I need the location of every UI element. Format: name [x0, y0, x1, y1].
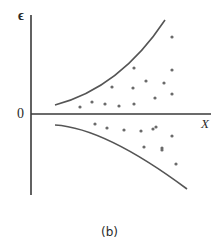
data-point: [174, 162, 177, 165]
x-axis-label: X: [201, 117, 209, 130]
data-point: [170, 134, 173, 137]
upper-bound-curve: [55, 20, 165, 105]
data-point: [105, 126, 108, 129]
data-point: [132, 102, 135, 105]
data-point: [170, 92, 173, 95]
data-point: [110, 85, 113, 88]
data-point: [90, 100, 93, 103]
heteroscedasticity-diagram: ϵ 0 X (b): [0, 0, 221, 246]
data-point: [132, 66, 135, 69]
data-point: [117, 104, 120, 107]
data-point: [139, 129, 142, 132]
scatter-points-above-axis: [78, 35, 173, 108]
data-point: [160, 148, 163, 151]
scatter-points-below-axis: [93, 122, 177, 165]
data-point: [142, 145, 145, 148]
figure-caption: (b): [101, 226, 118, 238]
data-point: [170, 68, 173, 71]
data-point: [131, 86, 134, 89]
data-point: [78, 105, 81, 108]
diagram-canvas: [0, 0, 221, 246]
origin-label: 0: [17, 107, 24, 121]
data-point: [103, 102, 106, 105]
y-axis-label: ϵ: [18, 9, 24, 23]
data-point: [162, 81, 165, 84]
lower-bound-curve: [55, 125, 187, 189]
data-point: [151, 127, 154, 130]
data-point: [144, 79, 147, 82]
data-point: [122, 128, 125, 131]
data-point: [93, 122, 96, 125]
data-point: [153, 96, 156, 99]
data-point: [170, 35, 173, 38]
data-point: [154, 125, 157, 128]
